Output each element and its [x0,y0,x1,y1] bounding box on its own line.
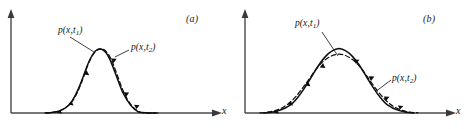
curve-label-b-t1: p(x,t1) [295,18,320,30]
curve-a-t1 [46,49,156,113]
curve-a-t2 [45,49,158,113]
curve-label-b-t2-text: p(x,t [392,73,410,83]
curve-label-b-t2: p(x,t2) [392,73,417,85]
panel-a: (a) p(x,t1) p(x,t2) x [0,0,234,129]
flow-markers-b [273,59,403,113]
leader-a-t1 [70,37,94,52]
curve-label-a-t2: p(x,t2) [131,42,156,54]
curve-label-b-t2-close: ) [413,73,416,83]
axes-b [242,9,456,117]
leader-lines-a [70,37,129,57]
leader-b-t2 [375,80,391,92]
curve-label-b-t1-text: p(x,t [295,18,313,28]
leader-a-t2 [115,50,129,57]
curve-label-a-t2-close: ) [152,42,155,52]
curve-label-a-t1-text: p(x,t [58,25,76,35]
axes-a [8,9,222,117]
x-axis-label-a: x [222,105,226,116]
curve-label-a-t1-close: ) [79,25,82,35]
curve-label-a-t1: p(x,t1) [58,25,83,37]
panel-b: (b) p(x,t1) p(x,t2) x [234,0,468,129]
curve-label-b-t1-close: ) [316,18,319,28]
panel-tag-b: (b) [423,13,435,24]
curve-label-a-t2-text: p(x,t [131,42,149,52]
x-axis-label-b: x [456,105,460,116]
figure-root: (a) p(x,t1) p(x,t2) x [0,0,469,129]
panel-tag-a: (a) [186,13,198,24]
